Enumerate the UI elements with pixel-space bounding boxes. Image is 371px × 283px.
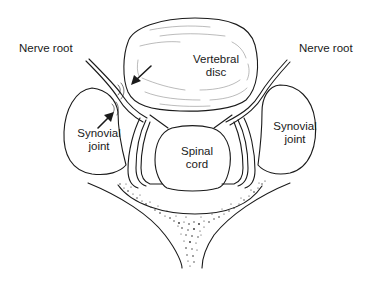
label-synovial-joint-left: Synovial joint: [74, 127, 124, 153]
label-synovial-joint-left-line1: Synovial: [74, 127, 124, 140]
arrow-icon-disc-compression: [131, 66, 151, 85]
label-vertebral-disc-line1: Vertebral: [188, 53, 244, 66]
nerve-root-left-shape: [86, 59, 147, 122]
label-spinal-cord-line1: Spinal: [172, 145, 222, 158]
label-nerve-root-right: Nerve root: [299, 42, 353, 55]
spine-cross-section-diagram: Nerve root Nerve root Vertebral disc Syn…: [0, 0, 371, 283]
label-synovial-joint-left-line2: joint: [74, 140, 124, 153]
label-synovial-joint-right-line1: Synovial: [270, 120, 320, 133]
arrow-icon-joint-compression: [98, 112, 114, 128]
label-vertebral-disc-line2: disc: [188, 66, 244, 79]
label-vertebral-disc: Vertebral disc: [188, 53, 244, 79]
label-nerve-root-left: Nerve root: [19, 42, 73, 55]
label-synovial-joint-right: Synovial joint: [270, 120, 320, 146]
label-spinal-cord-line2: cord: [172, 158, 222, 171]
label-synovial-joint-right-line2: joint: [270, 133, 320, 146]
lamina-shape: [88, 183, 290, 268]
bone-stipple: [119, 180, 265, 266]
label-spinal-cord: Spinal cord: [172, 145, 222, 171]
